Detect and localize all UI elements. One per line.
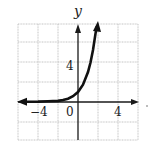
x-tick-label: 4: [114, 105, 122, 119]
exponential-curve: [22, 27, 97, 102]
x-tick-label: 0: [66, 105, 74, 119]
graph: y −4 0 4 4: [0, 0, 149, 149]
x-tick-label: −4: [30, 105, 48, 119]
y-tick-label: 4: [66, 59, 74, 73]
y-axis-title: y: [73, 3, 83, 19]
x-axis-label-fragment: [146, 105, 148, 107]
y-axis-arrow-icon: [75, 24, 81, 33]
curve-top-arrow-icon: [93, 21, 101, 32]
